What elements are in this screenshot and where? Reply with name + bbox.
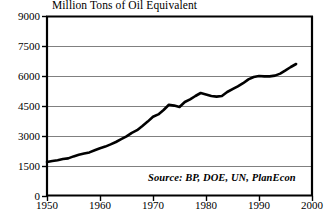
- x-tick-label: 2000: [289, 200, 330, 211]
- x-tick-label: 1950: [24, 200, 70, 211]
- y-tick-label: 3000: [2, 131, 40, 142]
- chart-figure: Million Tons of Oil Equivalent Source: B…: [0, 0, 330, 224]
- x-tick-label: 1980: [183, 200, 229, 211]
- y-tick-label: 4500: [2, 101, 40, 112]
- x-tick-label: 1990: [236, 200, 282, 211]
- y-tick-label: 1500: [2, 161, 40, 172]
- y-tick-label: 7500: [2, 41, 40, 52]
- data-series-line: [47, 64, 296, 162]
- y-axis-tick-labels: 9000 7500 6000 4500 3000 1500 0: [0, 0, 40, 224]
- x-tick-label: 1960: [77, 200, 123, 211]
- y-tick-label: 6000: [2, 71, 40, 82]
- source-annotation: Source: BP, DOE, UN, PlanEcon: [148, 172, 296, 183]
- chart-title: Million Tons of Oil Equivalent: [52, 0, 197, 11]
- x-tick-label: 1970: [130, 200, 176, 211]
- y-tick-label: 9000: [2, 11, 40, 22]
- plot-area: [0, 0, 330, 224]
